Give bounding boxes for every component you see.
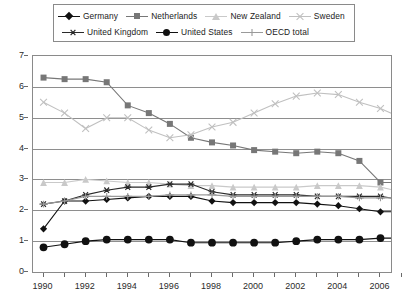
y-axis-tick-label: 2 [2,204,24,214]
y-axis-tick [24,240,28,241]
y-axis-tick-label: 4 [2,143,24,153]
chart-screenshot: { "legend": { "position": "top", "entrie… [0,0,407,305]
x-axis-tick [295,273,296,277]
triangle-marker-icon [205,11,227,22]
y-axis-tick [24,117,28,118]
x-axis-tick [379,273,380,277]
y-axis-tick [24,86,28,87]
x-axis-tick [43,273,44,277]
legend-item-united-states[interactable]: United States [156,27,233,38]
x-axis-tick-label: 1990 [33,281,53,291]
legend-row-1: GermanyNetherlandsNew ZealandSweden [58,8,350,24]
legend-item-sweden[interactable]: Sweden [289,11,345,22]
x-axis-tick [169,273,170,277]
plus-marker-icon [241,27,263,38]
x-axis-tick [85,273,86,277]
y-axis-tick-label: 0 [2,266,24,276]
y-axis-tick [24,148,28,149]
legend-item-new-zealand[interactable]: New Zealand [205,11,280,22]
x-axis-tick-label: 2004 [327,281,347,291]
legend-label: Germany [83,11,118,21]
x-marker-icon [289,11,311,22]
diamond-marker-icon [58,11,80,22]
legend-label: Sweden [314,11,345,21]
x-axis-tick [274,273,275,277]
y-axis-tick [24,271,28,272]
x-axis-tick [401,273,402,277]
x-axis-tick [190,273,191,277]
square-marker-icon [126,11,148,22]
x-axis-tick [316,273,317,277]
legend-item-united-kingdom[interactable]: United Kingdom [62,27,148,38]
x-axis-tick-label: 1998 [201,281,221,291]
legend-item-netherlands[interactable]: Netherlands [126,11,197,22]
x-axis-labels: 199019921994199619982000200220042006 [32,281,392,297]
legend-label: United Kingdom [87,27,148,37]
y-axis-tick-label: 5 [2,112,24,122]
legend-label: OECD total [266,27,309,37]
x-axis-tick [232,273,233,277]
x-axis-tick [64,273,65,277]
x-axis-tick-label: 1996 [159,281,179,291]
legend-label: Netherlands [151,11,197,21]
series-united-states [40,234,391,251]
legend-label: United States [181,27,233,37]
y-axis-tick-label: 6 [2,81,24,91]
asterisk-marker-icon [62,27,84,38]
x-axis-tick [127,273,128,277]
y-axis-labels: 01234567 [6,48,28,280]
x-axis-tick-label: 2000 [243,281,263,291]
x-axis-tick-label: 2002 [285,281,305,291]
legend-item-oecd-total[interactable]: OECD total [241,27,309,38]
chart-legend: GermanyNetherlandsNew ZealandSweden Unit… [53,4,355,42]
y-axis-tick-label: 7 [2,50,24,60]
legend-item-germany[interactable]: Germany [58,11,118,22]
y-axis-tick-label: 3 [2,173,24,183]
y-axis-tick-label: 1 [2,235,24,245]
x-axis-tick-label: 2006 [369,281,389,291]
series-sweden [40,90,391,142]
x-axis-tick [358,273,359,277]
x-axis-tick [148,273,149,277]
series-lines [33,56,391,272]
plot-area [32,55,392,273]
circle-marker-icon [156,27,178,38]
x-axis-tick-label: 1994 [117,281,137,291]
legend-label: New Zealand [230,11,280,21]
y-axis-tick [24,55,28,56]
x-axis-tick-label: 1992 [75,281,95,291]
series-netherlands [41,75,391,186]
y-axis-tick [24,178,28,179]
x-axis-tick [253,273,254,277]
y-axis-tick [24,209,28,210]
x-axis-tick [211,273,212,277]
x-axis-tick [106,273,107,277]
legend-row-2: United KingdomUnited StatesOECD total [58,24,350,40]
x-axis-tick [337,273,338,277]
